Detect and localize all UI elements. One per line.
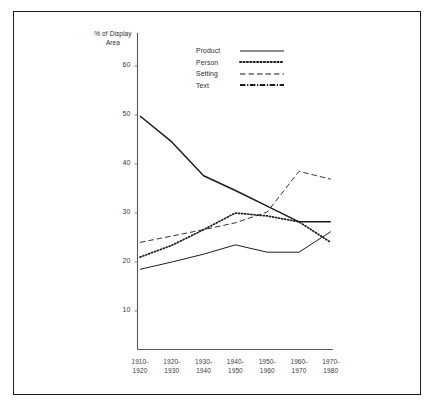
y-tick-label: 60 (109, 61, 131, 68)
legend-item-setting: Setting (196, 68, 300, 80)
x-tick-label: 1920- 1930 (155, 357, 189, 375)
dash-dot-line-swatch (238, 80, 288, 90)
y-tick-label: 10 (109, 306, 131, 313)
series-line-setting (140, 171, 331, 242)
dashed-line-swatch (238, 69, 288, 79)
legend-item-product: Product (196, 45, 300, 57)
legend-label: Text (196, 82, 238, 89)
legend-item-person: Person (196, 57, 300, 69)
y-tick-label: 30 (109, 208, 131, 215)
legend-label: Person (196, 59, 238, 66)
chart-legend: ProductPersonSettingText (196, 45, 300, 91)
y-tick-label: 50 (109, 110, 131, 117)
dotted-line-swatch (238, 57, 288, 67)
x-tick-label: 1970- 1980 (314, 357, 348, 375)
y-tick-label: 20 (109, 257, 131, 264)
y-tick-label: 40 (109, 159, 131, 166)
legend-label: Setting (196, 70, 238, 77)
legend-item-text: Text (196, 80, 300, 92)
x-tick-label: 1940- 1950 (218, 357, 252, 375)
x-tick-label: 1910- 1920 (123, 357, 157, 375)
y-axis-title: % of Display Area (82, 30, 144, 47)
legend-label: Product (196, 47, 238, 54)
series-line-text (140, 116, 331, 222)
x-tick-label: 1960- 1970 (282, 357, 316, 375)
solid-line-swatch (238, 46, 288, 56)
x-tick-label: 1950- 1960 (250, 357, 284, 375)
series-line-product (140, 232, 331, 270)
x-tick-label: 1930- 1940 (187, 357, 221, 375)
